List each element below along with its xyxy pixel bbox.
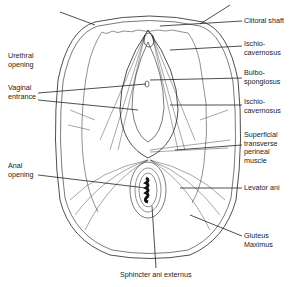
label-ischiocavernosus-upper: Ischio- cavernosus [244,40,281,57]
label-sphincter-ani-externus: Sphincter ani externus [120,271,192,280]
label-line: cavernosus [244,49,281,58]
vulva-outline [120,30,178,158]
label-line: cavernosus [244,107,281,116]
label-line: spongiosus [244,78,280,87]
label-levator-ani: Levator ani [244,184,280,193]
label-clitoral-shaft: Clitoral shaft [244,17,284,26]
label-line: muscle [244,157,278,166]
label-bulbospongiosus: Bulbo- spongiosus [244,69,280,86]
label-line: entrance [8,93,36,102]
body-outline [55,16,240,259]
anal-opening-mark [145,178,148,202]
label-line: Maximus [244,241,273,250]
label-anal-opening: Anal opening [8,162,34,179]
label-gluteus-maximus: Gluteus Maximus [244,232,273,249]
label-line: Sphincter ani externus [120,271,192,280]
label-line: opening [8,171,34,180]
label-vaginal-entrance-pos: Vaginal entrance [8,84,36,101]
label-ischiocavernosus-lower: Ischio- cavernosus [244,98,281,115]
label-line: Levator ani [244,184,280,193]
label-line: opening [8,61,34,70]
label-superficial-transverse-perineal: Superficial transverse perineal muscle [244,131,278,165]
label-line: Clitoral shaft [244,17,284,26]
label-urethral-opening-pos: Urethral opening [8,52,34,69]
